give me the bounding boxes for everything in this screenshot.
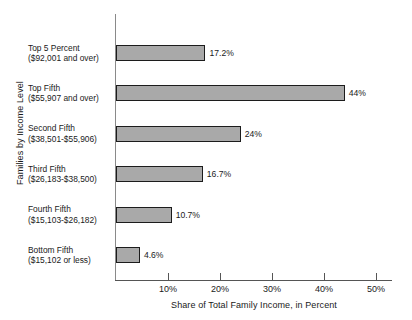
- category-label: Bottom Fifth($15,102 or less): [28, 245, 112, 266]
- category-label-line1: Third Fifth: [28, 164, 112, 175]
- category-label: Third Fifth($26,183-$38,500): [28, 164, 112, 185]
- category-label-line2: ($55,907 and over): [28, 93, 112, 104]
- category-label: Second Fifth($38,501-$55,906): [28, 123, 112, 144]
- x-tick-mark: [324, 273, 325, 280]
- category-label-line1: Top 5 Percent: [28, 43, 112, 54]
- x-tick-mark: [168, 273, 169, 280]
- x-tick-label: 10%: [148, 284, 188, 294]
- category-label-line1: Fourth Fifth: [28, 204, 112, 215]
- category-label: Top Fifth($55,907 and over): [28, 83, 112, 104]
- category-label-line2: ($26,183-$38,500): [28, 174, 112, 185]
- x-tick-label: 20%: [200, 284, 240, 294]
- category-label-line1: Bottom Fifth: [28, 245, 112, 256]
- x-tick-mark: [220, 273, 221, 280]
- bar: [116, 207, 172, 223]
- bar: [116, 166, 203, 182]
- category-label: Fourth Fifth($15,103-$26,182): [28, 204, 112, 225]
- category-label-line2: ($92,001 and over): [28, 53, 112, 64]
- x-tick-label: 40%: [304, 284, 344, 294]
- bar: [116, 126, 241, 142]
- category-label: Top 5 Percent($92,001 and over): [28, 43, 112, 64]
- x-axis-title: Share of Total Family Income, in Percent: [116, 300, 392, 310]
- bar-chart: Families by Income Level 10%20%30%40%50%…: [0, 0, 412, 320]
- bar-value-label: 44%: [349, 85, 366, 101]
- category-label-line1: Second Fifth: [28, 123, 112, 134]
- x-tick-mark: [376, 273, 377, 280]
- x-tick-label: 30%: [252, 284, 292, 294]
- bar-value-label: 10.7%: [176, 207, 200, 223]
- bar: [116, 85, 345, 101]
- bar-value-label: 24%: [245, 126, 262, 142]
- bar: [116, 247, 140, 263]
- x-tick-label: 50%: [356, 284, 396, 294]
- bar: [116, 45, 205, 61]
- bar-value-label: 4.6%: [144, 247, 164, 263]
- y-axis-title: Families by Income Level: [15, 43, 25, 223]
- bar-value-label: 16.7%: [207, 166, 231, 182]
- category-label-line2: ($15,102 or less): [28, 255, 112, 266]
- category-label-line2: ($38,501-$55,906): [28, 134, 112, 145]
- x-axis-line: [115, 280, 392, 281]
- category-label-line1: Top Fifth: [28, 83, 112, 94]
- x-tick-mark: [272, 273, 273, 280]
- bar-value-label: 17.2%: [209, 45, 233, 61]
- category-label-line2: ($15,103-$26,182): [28, 215, 112, 226]
